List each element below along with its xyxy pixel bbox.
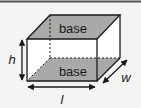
prism-figure: base base h l w: [0, 0, 141, 108]
top-base-label: base: [59, 21, 87, 36]
bottom-base-label: base: [59, 64, 87, 79]
width-label: w: [121, 70, 132, 85]
prism-diagram: base base h l w: [0, 0, 141, 108]
height-label: h: [8, 52, 15, 67]
length-label: l: [61, 92, 65, 107]
